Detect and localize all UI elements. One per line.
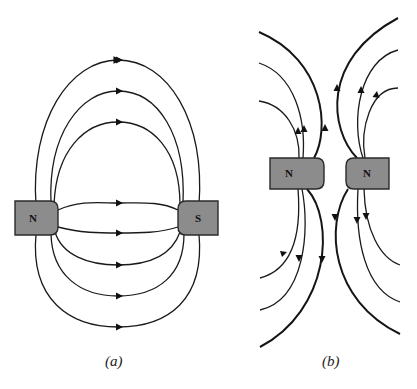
field-lines-right-bottom <box>336 189 400 334</box>
field-lines-lower <box>35 227 199 327</box>
field-lines-left-bottom <box>260 189 323 347</box>
arrowheads-a <box>116 57 123 331</box>
magnet-north-b-right: N <box>346 158 389 189</box>
field-line <box>259 101 299 158</box>
field-line <box>336 189 400 334</box>
field-line <box>259 32 322 158</box>
field-lines-right-top <box>337 18 398 158</box>
pole-label: N <box>363 167 371 179</box>
field-line <box>260 189 323 347</box>
field-lines-upper <box>35 60 199 210</box>
pole-label: S <box>195 212 201 224</box>
magnet-south-a: S <box>178 201 218 235</box>
magnet-north-a: N <box>15 201 58 235</box>
field-line <box>35 60 199 205</box>
field-line <box>35 234 199 327</box>
field-lines-left-top <box>259 32 322 158</box>
panel-a: N S <box>15 57 218 331</box>
field-line <box>337 18 398 158</box>
field-line <box>54 122 180 205</box>
caption-b: (b) <box>322 353 340 370</box>
magnet-north-b-left: N <box>270 158 324 189</box>
field-line <box>364 189 400 265</box>
field-line <box>55 232 180 265</box>
field-line <box>260 189 299 278</box>
pole-label: N <box>285 167 293 179</box>
pole-label: N <box>29 212 37 224</box>
field-line <box>364 88 398 158</box>
panel-b: N N <box>259 18 400 347</box>
magnetic-field-figure: N S <box>0 0 417 389</box>
caption-a: (a) <box>105 353 123 370</box>
